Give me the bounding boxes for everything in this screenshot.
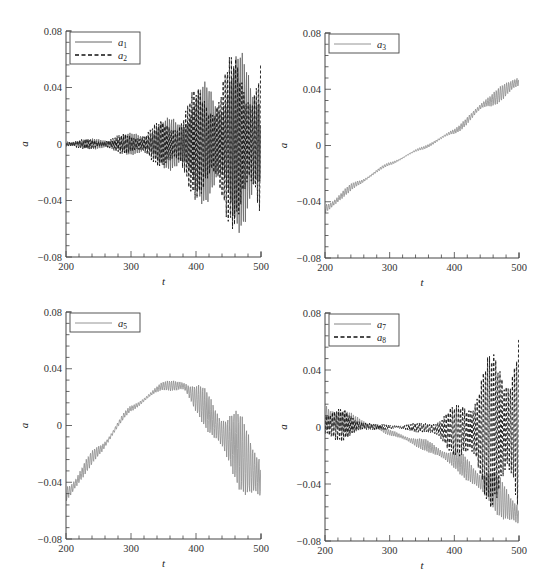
y-tick-label: −0.08 [38,534,62,545]
y-tick-label: 0 [316,140,321,151]
x-tick-label: 500 [511,262,527,273]
y-axis-label: a [277,424,289,430]
chart-panel-a1-a2: 200300400500−0.08−0.0400.040.08taa1a2 [0,0,274,293]
x-tick-label: 200 [58,543,74,554]
y-tick-label: 0.04 [303,84,322,95]
y-tick-label: 0.08 [303,28,321,39]
legend: a7a8 [329,314,399,346]
y-tick-label: 0.08 [303,308,321,319]
y-axis-label: a [18,422,30,428]
y-tick-label: −0.04 [297,479,322,490]
x-tick-label: 200 [317,262,333,273]
y-tick-label: 0.08 [44,26,62,37]
x-tick-label: 400 [188,261,204,272]
plot-area [66,53,261,233]
legend: a5 [70,313,140,332]
chart-svg: 200300400500−0.08−0.0400.040.08taa1a2 [0,0,274,293]
axes: 200300400500−0.08−0.0400.040.08 [297,28,527,274]
series-a3 [325,78,519,212]
x-axis-label: t [420,276,424,288]
chart-svg: 200300400500−0.08−0.0400.040.08taa7a8 [274,293,548,586]
y-axis-label: a [277,142,289,148]
y-tick-label: 0.04 [44,363,63,374]
x-tick-label: 500 [511,545,527,556]
x-tick-label: 200 [58,261,74,272]
y-tick-label: 0.04 [44,82,63,93]
legend: a3 [329,34,399,53]
x-tick-label: 400 [188,543,204,554]
series-a5 [66,381,261,501]
x-tick-label: 300 [382,545,398,556]
y-tick-label: −0.08 [297,536,321,547]
legend: a1a2 [70,32,140,64]
series-a7 [325,406,519,523]
chart-svg: 200300400500−0.08−0.0400.040.08taa5 [0,293,274,586]
x-axis-label: t [162,557,166,569]
y-tick-label: −0.08 [297,253,321,264]
x-axis-label: t [420,559,424,571]
x-tick-label: 500 [253,543,269,554]
y-tick-label: −0.08 [38,252,62,263]
series-a1 [66,53,261,233]
y-tick-label: 0 [316,422,321,433]
y-tick-label: −0.04 [297,196,322,207]
plot-area [325,340,519,523]
x-tick-label: 200 [317,545,333,556]
x-tick-label: 500 [253,261,269,272]
y-tick-label: −0.04 [38,477,63,488]
x-tick-label: 300 [123,543,139,554]
x-tick-label: 300 [382,262,398,273]
y-tick-label: 0 [57,139,62,150]
chart-panel-a7-a8: 200300400500−0.08−0.0400.040.08taa7a8 [274,293,548,586]
y-axis-label: a [18,141,30,147]
x-tick-label: 400 [446,545,462,556]
plot-area [66,381,261,501]
chart-panel-a3: 200300400500−0.08−0.0400.040.08taa3 [274,0,548,293]
y-tick-label: 0.04 [303,365,322,376]
plot-area [325,78,519,212]
x-tick-label: 300 [123,261,139,272]
x-axis-label: t [162,275,166,287]
chart-svg: 200300400500−0.08−0.0400.040.08taa3 [274,0,548,293]
chart-panel-a5: 200300400500−0.08−0.0400.040.08taa5 [0,293,274,586]
y-tick-label: 0 [57,420,62,431]
y-tick-label: 0.08 [44,307,62,318]
x-tick-label: 400 [446,262,462,273]
y-tick-label: −0.04 [38,195,63,206]
